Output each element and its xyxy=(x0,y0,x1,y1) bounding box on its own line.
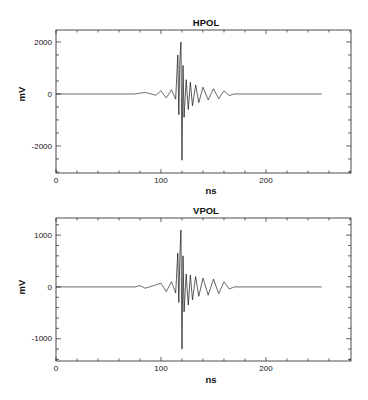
vpol-waveform xyxy=(56,230,322,349)
hpol-xlabel: ns xyxy=(205,185,216,196)
hpol-ytick-neg2000: -2000 xyxy=(32,142,53,151)
figure: HPOL 2000 0 -2000 0 100 200 ns mV VPOL 1… xyxy=(0,0,368,400)
hpol-axes-frame xyxy=(56,30,351,173)
vpol-plot: VPOL 1000 0 -1000 0 100 200 ns mV xyxy=(16,205,351,385)
hpol-ylabel: mV xyxy=(16,86,27,101)
hpol-xtick-200: 200 xyxy=(259,176,273,185)
vpol-ytick-0: 0 xyxy=(48,283,53,292)
vpol-title: VPOL xyxy=(193,205,219,216)
hpol-xtick-0: 0 xyxy=(54,176,59,185)
vpol-ytick-1000: 1000 xyxy=(34,231,52,240)
hpol-title: HPOL xyxy=(193,17,220,28)
vpol-ytick-neg1000: -1000 xyxy=(32,334,53,343)
vpol-xtick-0: 0 xyxy=(54,364,59,373)
hpol-ticks xyxy=(56,30,351,173)
hpol-ytick-0: 0 xyxy=(48,90,53,99)
vpol-axes-frame xyxy=(56,218,351,361)
vpol-xtick-200: 200 xyxy=(259,364,273,373)
hpol-waveform xyxy=(56,42,322,160)
vpol-xlabel: ns xyxy=(205,374,216,385)
hpol-ytick-2000: 2000 xyxy=(34,38,52,47)
vpol-ylabel: mV xyxy=(16,279,27,294)
hpol-xtick-100: 100 xyxy=(154,176,168,185)
vpol-xtick-100: 100 xyxy=(154,364,168,373)
vpol-ticks xyxy=(56,218,351,361)
hpol-plot: HPOL 2000 0 -2000 0 100 200 ns mV xyxy=(16,17,351,196)
